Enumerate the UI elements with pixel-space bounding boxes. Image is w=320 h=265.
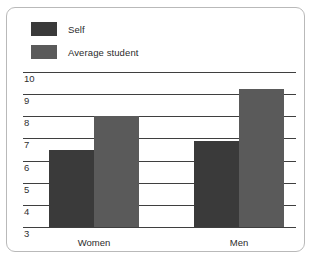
x-tick-label-men: Men bbox=[230, 237, 248, 248]
legend-swatch-self bbox=[31, 22, 57, 36]
chart-legend: Self Average student bbox=[31, 19, 231, 65]
chart-figure: Self Average student 345678910 WomenMen bbox=[6, 7, 305, 252]
gridline-3 bbox=[23, 227, 296, 228]
legend-swatch-average-student bbox=[31, 45, 57, 59]
legend-item-self: Self bbox=[31, 19, 231, 39]
legend-label-self: Self bbox=[68, 24, 85, 35]
x-tick-label-women: Women bbox=[78, 237, 111, 248]
bar-men-average-student bbox=[239, 89, 284, 227]
bar-group-container bbox=[23, 72, 296, 227]
plot-area: 345678910 bbox=[23, 72, 296, 234]
bar-women-average-student bbox=[94, 116, 139, 227]
bar-women-self bbox=[49, 150, 94, 228]
bar-men-self bbox=[194, 141, 239, 227]
legend-label-average-student: Average student bbox=[68, 47, 139, 58]
legend-item-average-student: Average student bbox=[31, 42, 231, 62]
x-axis-tick-labels: WomenMen bbox=[23, 237, 296, 252]
